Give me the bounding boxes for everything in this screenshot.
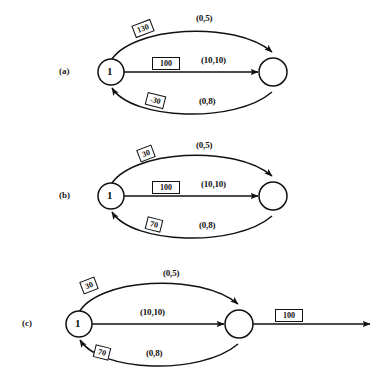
figure-canvas: (a) 1 (0,5) (10,10) (0,8) 130 100 -30 (b…	[0, 0, 379, 389]
panel-b-middle-edge-label: (10,10)	[201, 179, 226, 189]
panel-b-tag: (b)	[59, 190, 70, 200]
panel-c-sink-node	[225, 310, 253, 338]
panel-b-top-arc	[110, 155, 272, 186]
panel-a-bottom-arc	[112, 88, 272, 114]
diagram-svg	[0, 0, 379, 389]
panel-a-tag: (a)	[59, 66, 70, 76]
panel-a-source-node-label: 1	[107, 65, 113, 77]
panel-a-middle-edge-label: (10,10)	[201, 55, 226, 65]
panel-c-middle-edge-label: (10,10)	[140, 307, 165, 317]
panel-b-top-arc-label: (0,5)	[196, 140, 212, 150]
panel-b-bottom-arc-label: (0,8)	[199, 220, 215, 230]
panel-a-graphics	[98, 31, 287, 114]
panel-a-bottom-arc-label: (0,8)	[199, 96, 215, 106]
panel-a-middle-edge-box: 100	[152, 57, 180, 70]
panel-c-outgoing-edge-box: 100	[275, 309, 303, 322]
panel-b-middle-edge-box: 100	[152, 181, 180, 194]
panel-c-bottom-arc-label: (0,8)	[146, 348, 162, 358]
panel-b-source-node-label: 1	[107, 189, 113, 201]
panel-a-sink-node	[259, 58, 287, 86]
panel-b-graphics	[98, 155, 287, 238]
panel-c-tag: (c)	[22, 318, 32, 328]
panel-c-top-arc-label: (0,5)	[163, 268, 179, 278]
panel-a-top-arc-label: (0,5)	[196, 13, 212, 23]
panel-c-graphics	[66, 283, 370, 366]
panel-c-source-node-label: 1	[75, 317, 81, 329]
panel-b-sink-node	[259, 182, 287, 210]
panel-b-bottom-arc	[112, 212, 272, 238]
